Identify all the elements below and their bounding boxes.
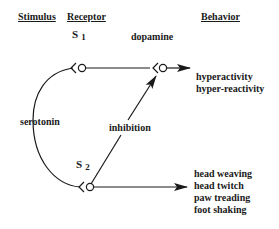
behavior-paw-treading: paw treading [194, 192, 250, 204]
header-stimulus: Stimulus [18, 11, 56, 23]
behavior-head-twitch: head twitch [194, 180, 244, 192]
header-behavior: Behavior [201, 11, 240, 23]
serotonin-label: serotonin [20, 116, 60, 128]
inhibition-arrow-lower [91, 135, 121, 184]
behavior-head-weaving: head weaving [194, 168, 252, 180]
receptor-s2-label: S2 [76, 158, 90, 173]
header-receptor: Receptor [67, 11, 106, 23]
inhibition-arrow-upper [128, 76, 156, 120]
receptor-s1-label: S1 [72, 28, 86, 43]
inhibition-label: inhibition [109, 122, 151, 134]
s1-synapse [71, 63, 190, 73]
behavior-foot-shaking: foot shaking [194, 204, 247, 216]
dopamine-label: dopamine [131, 31, 173, 43]
s2-synapse [79, 182, 187, 192]
behavior-hyperactivity: hyperactivity [196, 71, 253, 83]
behavior-hyper-reactivity: hyper-reactivity [196, 83, 264, 95]
